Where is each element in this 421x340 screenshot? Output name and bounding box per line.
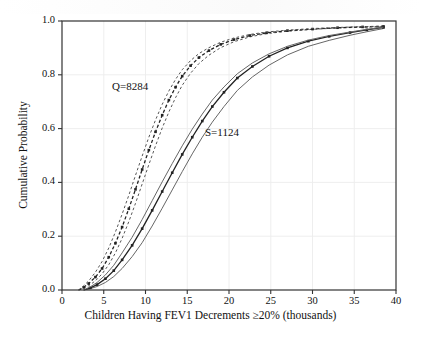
x-tick-label: 25 bbox=[251, 295, 291, 306]
series-marker bbox=[96, 283, 99, 286]
x-tick-label: 0 bbox=[42, 295, 82, 306]
series-marker bbox=[141, 168, 144, 171]
series-marker bbox=[114, 242, 117, 245]
series-marker bbox=[211, 105, 214, 108]
series-line bbox=[79, 26, 384, 290]
series-marker bbox=[191, 136, 194, 139]
series-marker bbox=[168, 99, 171, 102]
series-marker bbox=[94, 276, 97, 279]
x-tick-label: 20 bbox=[209, 295, 249, 306]
figure-container: Cumulative Probability Children Having F… bbox=[0, 0, 421, 340]
series-marker bbox=[141, 227, 144, 230]
series-marker bbox=[107, 256, 110, 259]
x-tick-label: 5 bbox=[84, 295, 124, 306]
series-marker bbox=[134, 188, 137, 191]
series-marker bbox=[151, 209, 154, 212]
series-marker bbox=[251, 65, 254, 68]
series-marker bbox=[181, 75, 184, 78]
series-marker bbox=[87, 282, 90, 285]
series-marker bbox=[121, 259, 124, 262]
data-curves bbox=[79, 25, 385, 290]
x-tick-label: 10 bbox=[126, 295, 166, 306]
series-marker bbox=[208, 49, 211, 52]
axis-ticks bbox=[58, 21, 396, 294]
series-marker bbox=[174, 86, 177, 89]
series-marker bbox=[104, 277, 107, 280]
series-marker bbox=[181, 153, 184, 156]
series-marker bbox=[268, 55, 271, 58]
y-tick-label: 0.0 bbox=[10, 283, 55, 294]
y-tick-label: 0.4 bbox=[10, 175, 55, 186]
series-marker bbox=[101, 267, 104, 270]
plot-area bbox=[0, 0, 421, 340]
series-marker bbox=[161, 114, 164, 117]
series-line bbox=[84, 27, 384, 290]
x-tick-label: 30 bbox=[293, 295, 333, 306]
annotation-s: S=1124 bbox=[205, 126, 239, 138]
series-marker bbox=[148, 149, 151, 152]
y-tick-label: 1.0 bbox=[10, 14, 55, 25]
series-marker bbox=[128, 207, 131, 210]
x-tick-label: 35 bbox=[334, 295, 374, 306]
series-marker bbox=[131, 244, 134, 247]
series-marker bbox=[236, 77, 239, 80]
annotation-q: Q=8284 bbox=[112, 80, 148, 92]
series-marker bbox=[201, 120, 204, 123]
series-marker bbox=[112, 269, 115, 272]
series-line bbox=[79, 26, 384, 290]
series-marker bbox=[171, 171, 174, 174]
gridlines bbox=[62, 21, 396, 290]
series-marker bbox=[219, 43, 222, 46]
series-marker bbox=[198, 56, 201, 59]
series-marker bbox=[249, 34, 252, 37]
y-tick-label: 0.8 bbox=[10, 68, 55, 79]
x-axis-label: Children Having FEV1 Decrements ≥20% (th… bbox=[0, 309, 421, 321]
series-marker bbox=[223, 91, 226, 94]
series-line bbox=[79, 27, 384, 290]
y-tick-label: 0.2 bbox=[10, 229, 55, 240]
series-marker bbox=[161, 190, 164, 193]
y-tick-label: 0.6 bbox=[10, 122, 55, 133]
x-tick-label: 40 bbox=[376, 295, 416, 306]
series-marker bbox=[121, 226, 124, 229]
y-axis-label: Cumulative Probability bbox=[17, 55, 29, 255]
series-marker bbox=[154, 131, 157, 134]
series-marker bbox=[189, 64, 192, 67]
x-tick-label: 15 bbox=[167, 295, 207, 306]
